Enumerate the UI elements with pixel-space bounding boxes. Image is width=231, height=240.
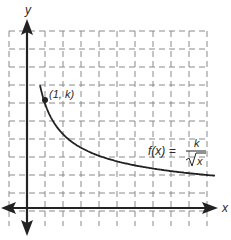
function-numerator: k	[194, 137, 200, 149]
graph-figure: y x (1, k) f(x) = k x	[0, 0, 231, 240]
point-marker	[42, 97, 48, 103]
y-axis	[21, 19, 33, 236]
y-axis-label: y	[24, 3, 32, 17]
coordinate-plane: y x (1, k) f(x) = k x	[0, 0, 231, 240]
x-axis-label: x	[221, 201, 229, 215]
dashed-grid	[9, 31, 207, 226]
point-label: (1, k)	[49, 88, 74, 100]
function-denominator: x	[196, 155, 203, 167]
x-axis	[1, 202, 218, 214]
function-label: f(x) = k x	[148, 137, 206, 167]
function-lhs: f(x) =	[148, 144, 176, 158]
